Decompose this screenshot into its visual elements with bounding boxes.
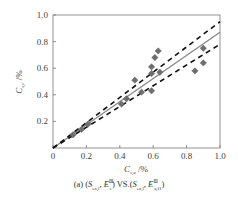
x-tick-label: 0.4: [114, 151, 126, 161]
caption-text: (a) (: [74, 179, 88, 189]
scatter-chart: 00.20.40.60.81.00.20.40.60.81.0 Cs,a /% …: [0, 0, 238, 178]
y-tick-label: 0.2: [37, 116, 48, 126]
diamond-marker: [132, 77, 138, 83]
fit-line: [53, 32, 220, 148]
figure-caption: (a) (Sea,l, EⅢe) VS.(Sea,l, EⅢa,l1): [0, 178, 238, 191]
axis-ticks: 00.20.40.60.81.00.20.40.60.81.0: [37, 10, 226, 161]
diamond-marker: [200, 60, 206, 66]
caption-text: , E: [144, 179, 153, 189]
caption-text: ea,l: [137, 186, 144, 191]
x-tick-label: 0: [51, 151, 56, 161]
data-points: [70, 45, 207, 138]
diamond-marker: [148, 64, 154, 70]
y-tick-label: 0.4: [37, 90, 49, 100]
x-tick-label: 1.0: [214, 151, 226, 161]
y-axis-label: Cs,e /%: [14, 70, 26, 94]
x-tick-label: 0.2: [81, 151, 92, 161]
x-tick-label: 0.6: [148, 151, 160, 161]
caption-text: ) VS.(: [112, 179, 133, 189]
diamond-marker: [157, 69, 163, 75]
diamond-marker: [148, 88, 154, 94]
upper-bound-line: [53, 22, 220, 148]
lower-bound-line: [53, 44, 220, 148]
diamond-marker: [152, 54, 158, 60]
diamond-marker: [155, 48, 161, 54]
caption-text: Ⅲ: [153, 179, 158, 184]
y-tick-label: 0.8: [37, 37, 49, 47]
diamond-marker: [192, 68, 198, 74]
diamond-marker: [123, 96, 129, 102]
x-tick-label: 0.8: [181, 151, 193, 161]
y-tick-label: 0.6: [37, 63, 49, 73]
caption-text: , E: [99, 179, 108, 189]
caption-text: ): [161, 179, 164, 189]
reference-lines: [53, 22, 220, 148]
y-tick-label: 1.0: [37, 10, 49, 20]
x-axis-label: Cs,a /%: [124, 164, 148, 176]
